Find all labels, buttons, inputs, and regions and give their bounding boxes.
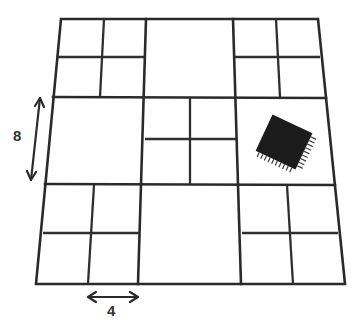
diagram-canvas: 8 4	[0, 0, 361, 329]
vertical-dimension: 8	[13, 98, 44, 180]
subdivided-cell-r2-c2	[242, 185, 338, 284]
subdivided-cell-r2-c0	[43, 185, 139, 284]
horizontal-dimension: 4	[88, 292, 138, 319]
ic-chip-icon	[253, 115, 317, 177]
vertical-dimension-label: 8	[13, 127, 21, 144]
grid-row-divider-2	[45, 184, 335, 185]
subdivided-cell-r0-c2	[235, 19, 320, 97]
grid-col-divider-2	[233, 19, 241, 284]
subdivided-cell-r0-c0	[58, 19, 144, 97]
grid-diagram: 8 4	[0, 0, 361, 329]
grid-col-divider-1	[138, 19, 146, 284]
vertical-dimension-line	[31, 98, 40, 180]
subdivided-cell-r1-c1	[145, 97, 236, 184]
horizontal-dimension-label: 4	[107, 302, 116, 319]
